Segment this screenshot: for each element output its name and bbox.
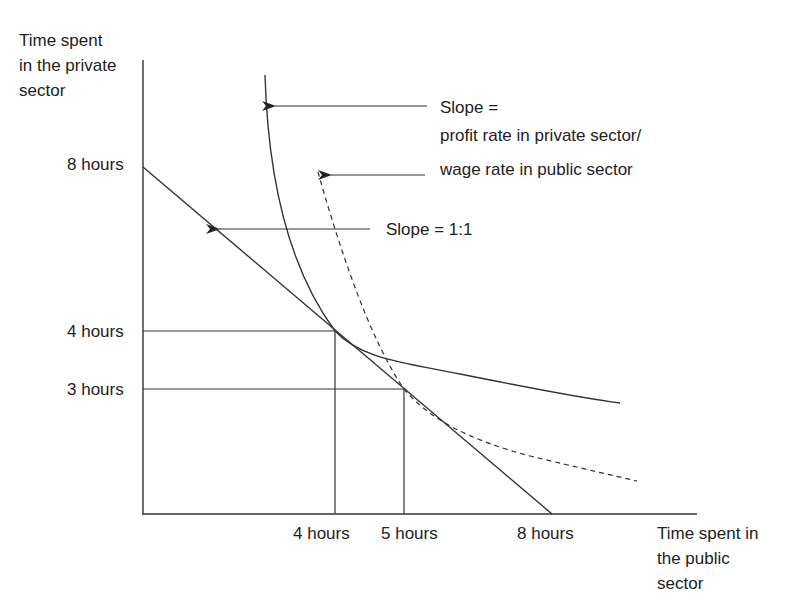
y-axis-label-line: Time spent xyxy=(19,28,116,53)
annotation-line: profit rate in private sector/ xyxy=(440,123,641,157)
y-axis-label-line: in the private xyxy=(19,53,116,78)
y-axis-label-line: sector xyxy=(19,78,116,103)
x-axis-label-line: sector xyxy=(657,571,758,596)
y-tick-8-hours: 8 hours xyxy=(67,152,124,177)
indifference-curve-dashed xyxy=(318,172,637,481)
y-tick-3-hours: 3 hours xyxy=(67,377,124,402)
x-axis-label-line: Time spent in xyxy=(657,521,758,546)
budget-line xyxy=(143,167,552,514)
x-tick-8-hours: 8 hours xyxy=(517,521,574,546)
x-axis-label-line: the public xyxy=(657,546,758,571)
annotation-line: Slope = xyxy=(440,95,641,123)
x-tick-5-hours: 5 hours xyxy=(381,521,438,546)
y-axis-label: Time spent in the private sector xyxy=(19,28,116,103)
annotation-line: wage rate in public sector xyxy=(440,157,641,182)
y-tick-4-hours: 4 hours xyxy=(67,319,124,344)
annotation-slope-ratio: Slope = profit rate in private sector/ w… xyxy=(440,95,641,182)
x-tick-4-hours: 4 hours xyxy=(293,521,350,546)
x-axis-label: Time spent in the public sector xyxy=(657,521,758,596)
annotation-slope-one: Slope = 1:1 xyxy=(386,217,473,242)
